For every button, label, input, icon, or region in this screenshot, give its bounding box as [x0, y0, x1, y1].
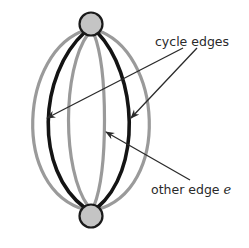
- cycle-edge-left: [48, 32, 85, 208]
- vertex-top: [80, 13, 103, 36]
- label-cycle-edges: cycle edges: [155, 34, 229, 49]
- label-other-edge: other edge e: [151, 182, 232, 197]
- label-other-edge-var: e: [224, 182, 232, 197]
- vertex-bottom: [80, 205, 103, 228]
- label-other-edge-text: other edge: [151, 182, 224, 197]
- cycle-diagram: cycle edges other edge e: [0, 0, 249, 248]
- edge-inner-right: [94, 34, 105, 206]
- edge-inner-left: [69, 34, 89, 206]
